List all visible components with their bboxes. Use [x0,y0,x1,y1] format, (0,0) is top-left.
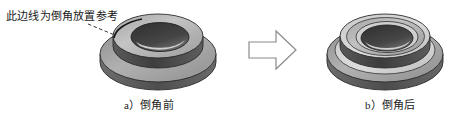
block-arrow-right-icon [249,31,296,69]
figure-canvas: 此边线为倒角放置参考 [0,0,461,119]
bore-opening [361,25,413,51]
bore-opening [131,23,189,52]
transition-arrow [243,26,301,74]
part-before-chamfer-illustration [96,6,221,94]
caption-part-before: a）倒角前 [124,99,174,112]
caption-part-after: b）倒角后 [365,99,416,112]
part-after-chamfer-illustration [322,4,450,96]
